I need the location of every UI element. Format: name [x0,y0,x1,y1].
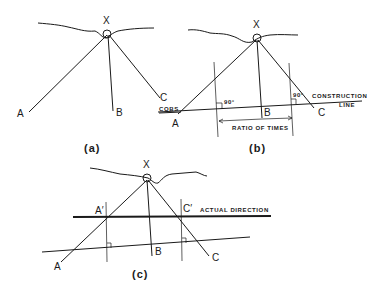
label-a-prime: A′ [95,205,104,216]
label-construction: CONSTRUCTION [312,93,367,99]
label-cobs: COBS [159,106,179,112]
panel-c: X A B C A′ C′ ACTUAL DIRECTION (c) [42,159,271,280]
ray-xc-c [148,180,209,256]
panel-a: X A B C (a) [17,15,167,154]
label-a-a: A [17,108,24,119]
ridge-line-b [188,30,298,43]
diagram-canvas: X A B C (a) X A B C COBS 90° 90° CONSTRU… [0,0,367,292]
label-c-c: C [212,252,219,263]
perpendicular-left-c [106,202,107,262]
label-b-c: B [155,246,162,257]
label-angle-left: 90° [224,99,235,105]
label-b-a: B [116,107,123,118]
construction-line-c [42,237,250,252]
apex-circle-a [103,30,111,38]
label-a-c: A [54,261,61,272]
label-c-b: C [318,107,325,118]
perpendicular-right [289,63,293,136]
label-angle-right: 90° [293,92,304,98]
ray-xc-b [258,40,314,108]
ray-xa-a [29,35,107,112]
label-ratio-of-times: RATIO OF TIMES [232,125,289,131]
label-x-c: X [143,159,150,170]
label-c-a: C [160,92,167,103]
label-line: LINE [339,102,355,108]
ray-xb-a [108,35,113,111]
ratio-dim-right [262,118,292,119]
label-x-a: X [103,15,110,26]
construction-line [158,101,362,112]
caption-c: (c) [132,268,148,280]
ray-xc-a [109,35,160,98]
perpendicular-left [214,62,218,137]
ratio-dim-left [219,119,262,121]
caption-b: (b) [249,142,266,154]
caption-a: (a) [84,142,100,154]
panel-b: X A B C COBS 90° 90° CONSTRUCTION LINE R… [158,19,367,154]
label-b-b: B [264,107,271,118]
ridge-line-a [38,23,154,38]
label-a-b: A [172,118,179,129]
perpendicular-right-c [181,199,182,261]
label-c-prime: C′ [183,203,192,214]
label-actual-direction: ACTUAL DIRECTION [200,207,269,213]
label-x-b: X [253,19,260,30]
actual-direction-line [73,216,271,217]
right-angle-right [291,99,296,104]
